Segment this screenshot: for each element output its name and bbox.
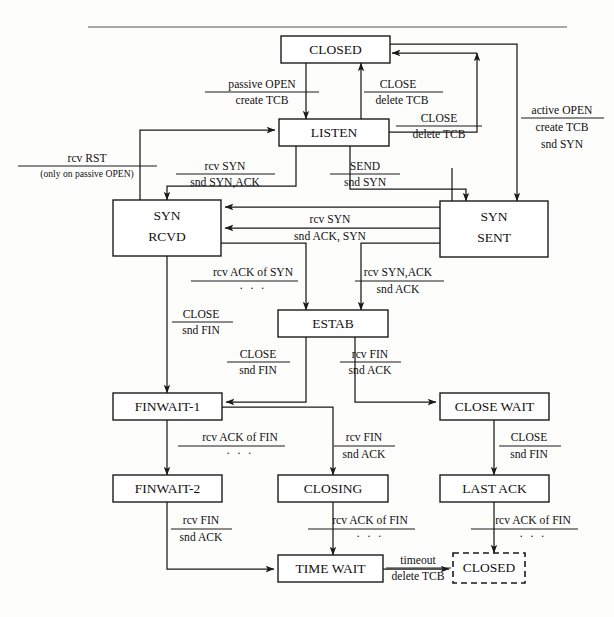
state-label-finwait-2: FINWAIT-2 — [135, 481, 201, 496]
state-estab[interactable]: ESTAB — [278, 310, 388, 337]
label-timeout-bottom: delete TCB — [392, 570, 445, 583]
label-close-1-bottom: delete TCB — [376, 94, 429, 107]
label-rcv-syn-listen: rcv SYN snd SYN,ACK — [176, 160, 275, 189]
label-sim-open-bottom: snd ACK, SYN — [294, 230, 366, 243]
state-closed[interactable]: CLOSED — [281, 36, 390, 63]
state-label-listen: LISTEN — [311, 125, 358, 140]
label-passive-open-top: passive OPEN — [228, 78, 296, 91]
label-rcv-syn-listen-top: rcv SYN — [205, 160, 247, 173]
label-active-open: active OPEN create TCB snd SYN — [521, 104, 604, 151]
states-layer: CLOSED LISTEN SYN RCVD SYN SENT ESTAB — [113, 36, 549, 583]
state-syn-rcvd[interactable]: SYN RCVD — [113, 200, 221, 256]
label-rcv-fin-fw1-bottom: snd ACK — [343, 448, 386, 461]
edge-listen-to-synrcvd — [167, 146, 296, 200]
state-label-close-wait: CLOSE WAIT — [455, 399, 535, 414]
state-label-syn-rcvd-line2: RCVD — [148, 229, 186, 244]
label-close-estab: CLOSE snd FIN — [227, 348, 290, 377]
state-close-wait[interactable]: CLOSE WAIT — [440, 393, 549, 420]
state-last-ack[interactable]: LAST ACK — [440, 475, 549, 502]
label-rcv-ack-of-syn-top: rcv ACK of SYN — [213, 266, 294, 279]
label-close-synrcvd: CLOSE snd FIN — [172, 308, 233, 337]
label-rcv-fin-fw2-bottom: snd ACK — [180, 531, 223, 544]
state-label-closing: CLOSING — [304, 481, 363, 496]
label-close-closewait: CLOSE snd FIN — [499, 431, 561, 461]
label-close-cw-bottom: snd FIN — [510, 448, 548, 461]
label-rcv-syn-ack: rcv SYN,ACK snd ACK — [355, 266, 444, 296]
label-active-open-extra: snd SYN — [541, 138, 584, 151]
label-active-open-top: active OPEN — [532, 104, 593, 117]
label-rcv-fin-estab-bottom: snd ACK — [349, 364, 392, 377]
label-close-cw-top: CLOSE — [511, 431, 548, 444]
label-sim-open-top: rcv SYN — [310, 213, 352, 226]
state-label-finwait-1: FINWAIT-1 — [135, 399, 201, 414]
label-send: SEND snd SYN — [330, 160, 400, 189]
label-rcv-syn-ack-top: rcv SYN,ACK — [364, 266, 433, 279]
label-rcv-rst-bottom: (only on passive OPEN) — [40, 168, 134, 180]
label-rcv-fin-fw2-top: rcv FIN — [183, 514, 220, 527]
state-label-time-wait: TIME WAIT — [296, 561, 367, 576]
state-closing[interactable]: CLOSING — [278, 475, 388, 502]
state-finwait-2[interactable]: FINWAIT-2 — [113, 475, 222, 502]
state-label-closed-terminal: CLOSED — [463, 560, 516, 575]
state-closed-terminal[interactable]: CLOSED — [453, 553, 525, 583]
state-time-wait[interactable]: TIME WAIT — [278, 555, 383, 582]
label-active-open-bottom: create TCB — [536, 121, 589, 134]
label-rcv-fin-estab: rcv FIN snd ACK — [340, 348, 401, 377]
label-close-estab-top: CLOSE — [240, 348, 277, 361]
state-label-last-ack: LAST ACK — [462, 481, 527, 496]
state-diagram-canvas: CLOSED LISTEN SYN RCVD SYN SENT ESTAB — [0, 0, 614, 617]
label-ack-fin-closing-bottom: · · · — [356, 530, 383, 543]
label-ack-fin-lastack: rcv ACK of FIN · · · — [471, 514, 578, 543]
label-rcv-rst: rcv RST (only on passive OPEN) — [18, 152, 157, 180]
label-close-delete-tcb-1: CLOSE delete TCB — [364, 78, 443, 107]
tcp-state-diagram-figure: CLOSED LISTEN SYN RCVD SYN SENT ESTAB — [0, 0, 614, 617]
label-send-bottom: snd SYN — [344, 176, 387, 189]
label-ack-fin-fw1-top: rcv ACK of FIN — [202, 431, 278, 444]
label-ack-fin-lastack-bottom: · · · — [519, 530, 546, 543]
label-rcv-ack-of-syn: rcv ACK of SYN · · · — [191, 266, 298, 295]
label-close-2-top: CLOSE — [421, 112, 458, 125]
label-rcv-syn-listen-bottom: snd SYN,ACK — [190, 176, 260, 189]
label-rcv-fin-estab-top: rcv FIN — [352, 348, 389, 361]
label-timeout-top: timeout — [400, 554, 436, 567]
state-label-syn-sent-line2: SENT — [477, 230, 512, 245]
label-close-2-bottom: delete TCB — [413, 128, 466, 141]
label-rcv-rst-top: rcv RST — [68, 152, 107, 165]
label-ack-fin-closing: rcv ACK of FIN · · · — [308, 514, 415, 543]
label-rcv-fin-fw1-top: rcv FIN — [346, 431, 383, 444]
label-ack-fin-closing-top: rcv ACK of FIN — [332, 514, 408, 527]
label-close-synrcvd-top: CLOSE — [183, 308, 220, 321]
state-syn-sent[interactable]: SYN SENT — [440, 201, 548, 257]
label-send-top: SEND — [350, 160, 380, 173]
label-timeout: timeout delete TCB — [386, 554, 451, 583]
label-rcv-fin-fw1: rcv FIN snd ACK — [334, 431, 395, 461]
label-rcv-ack-of-fin-fw1: rcv ACK of FIN · · · — [178, 431, 285, 460]
label-close-1-top: CLOSE — [380, 78, 417, 91]
state-finwait-1[interactable]: FINWAIT-1 — [113, 393, 222, 420]
state-label-estab: ESTAB — [312, 316, 354, 331]
label-close-delete-tcb-2: CLOSE delete TCB — [396, 112, 482, 141]
label-ack-fin-fw1-bottom: · · · — [226, 447, 253, 460]
label-rcv-syn-ack-bottom: snd ACK — [377, 283, 420, 296]
label-ack-fin-lastack-top: rcv ACK of FIN — [495, 514, 571, 527]
label-passive-open: passive OPEN create TCB — [205, 78, 319, 107]
label-rcv-fin-fw2: rcv FIN snd ACK — [171, 514, 232, 544]
label-rcv-ack-of-syn-bottom: · · · — [239, 282, 266, 295]
state-label-syn-sent-line1: SYN — [480, 209, 507, 224]
label-close-estab-bottom: snd FIN — [239, 364, 277, 377]
state-label-syn-rcvd-line1: SYN — [153, 208, 180, 223]
label-close-synrcvd-bottom: snd FIN — [182, 324, 220, 337]
label-passive-open-bottom: create TCB — [236, 94, 289, 107]
state-listen[interactable]: LISTEN — [279, 119, 389, 146]
state-label-closed: CLOSED — [309, 42, 362, 57]
